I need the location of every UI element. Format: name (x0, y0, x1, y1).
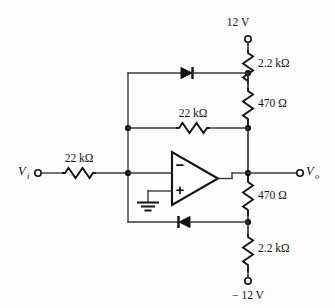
input-port-label: V (18, 164, 27, 178)
output-port-subscript: o (315, 171, 319, 181)
circuit-diagram: 12 V 2.2 kΩ 470 Ω 470 Ω 2.2 kΩ (0, 0, 335, 308)
input-resistor-symbol (62, 168, 96, 178)
lower-limit-resistor-symbol (243, 176, 253, 216)
upper-limit-resistor-label: 470 Ω (258, 97, 287, 109)
lower-bias-resistor-label: 2.2 kΩ (258, 242, 290, 254)
positive-supply-terminal[interactable] (245, 36, 251, 42)
feedback-resistor-label: 22 kΩ (179, 107, 208, 119)
lower-bias-resistor-symbol (243, 234, 253, 272)
upper-limit-resistor-symbol (243, 88, 253, 126)
feedback-resistor-symbol (176, 123, 210, 133)
positive-supply-label: 12 V (227, 16, 250, 28)
upper-bias-resistor-label: 2.2 kΩ (258, 57, 290, 69)
lower-clipping-diode-anode (179, 217, 190, 228)
lower-limit-resistor-label: 470 Ω (258, 189, 287, 201)
upper-clipping-diode-anode (181, 68, 192, 79)
opamp-inverting-sign: − (176, 156, 185, 173)
input-port-subscript: i (27, 171, 30, 181)
output-terminal[interactable] (297, 170, 303, 176)
input-terminal[interactable] (35, 170, 41, 176)
negative-supply-terminal[interactable] (245, 278, 251, 284)
output-port-label: V (306, 164, 315, 178)
opamp-noninverting-sign: + (176, 181, 185, 198)
schematic-canvas: 12 V 2.2 kΩ 470 Ω 470 Ω 2.2 kΩ (0, 0, 335, 308)
input-resistor-label: 22 kΩ (65, 152, 94, 164)
negative-supply-label: − 12 V (232, 289, 265, 301)
